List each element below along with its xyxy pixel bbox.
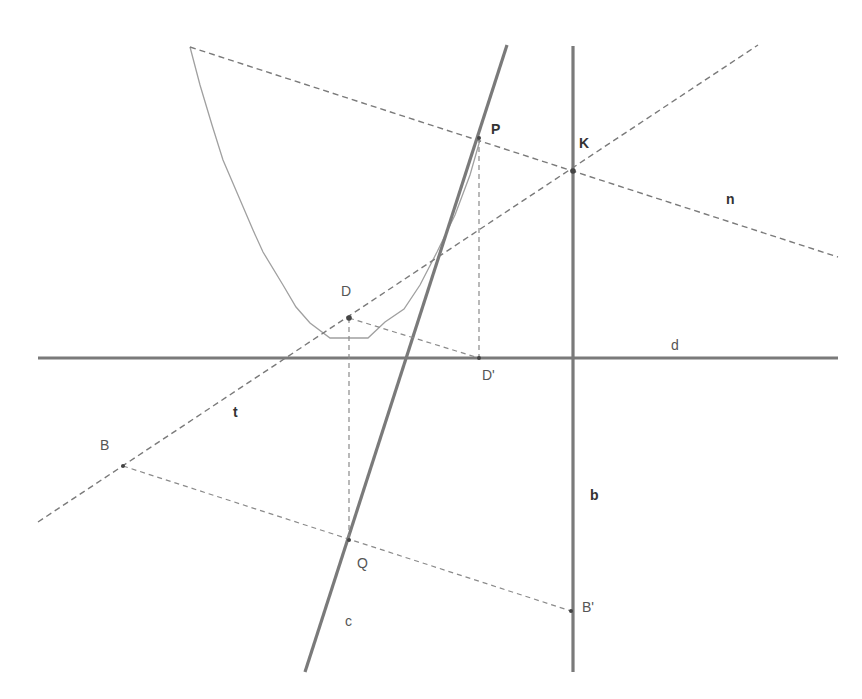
- label-point-b-prime: B': [582, 600, 594, 614]
- point-q[interactable]: [347, 538, 351, 542]
- label-line-d: d: [671, 338, 679, 352]
- label-point-d: D: [341, 284, 351, 298]
- label-point-k: K: [579, 136, 589, 150]
- point-bprime[interactable]: [569, 609, 573, 613]
- point-dprime[interactable]: [477, 356, 481, 360]
- diagram-canvas: [0, 0, 862, 699]
- point-d[interactable]: [346, 315, 352, 321]
- parabola-curve: [190, 47, 480, 338]
- label-line-t: t: [233, 405, 238, 419]
- label-line-n: n: [726, 192, 735, 206]
- line-t: [38, 45, 758, 522]
- label-point-q: Q: [357, 556, 368, 570]
- label-point-p: P: [491, 122, 500, 136]
- label-line-b: b: [590, 488, 599, 502]
- point-k[interactable]: [570, 168, 576, 174]
- segment-b-bprime: [123, 466, 571, 611]
- line-n: [190, 47, 838, 257]
- point-b[interactable]: [121, 464, 125, 468]
- label-point-d-prime: D': [482, 368, 495, 382]
- point-p[interactable]: [477, 136, 481, 140]
- label-line-c: c: [345, 614, 352, 628]
- label-point-b: B: [100, 438, 109, 452]
